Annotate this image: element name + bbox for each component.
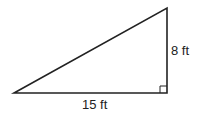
triangle-shape [14,8,167,93]
right-angle-marker [160,86,167,93]
horizontal-leg-label: 15 ft [82,97,107,112]
vertical-leg-label: 8 ft [171,43,189,58]
